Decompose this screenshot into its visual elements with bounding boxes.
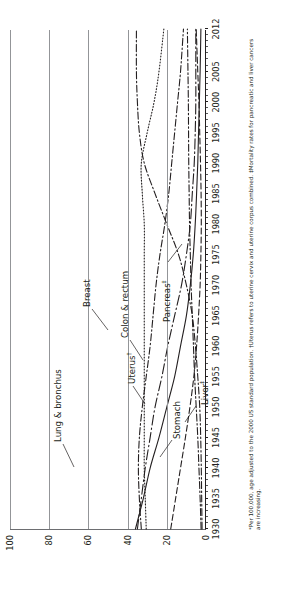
x-axis-minor-tick (206, 461, 208, 462)
x-axis-minor-tick (206, 40, 208, 41)
series-label-stomach: Stomach (173, 401, 182, 439)
x-axis-minor-tick (206, 77, 208, 78)
x-axis-minor-tick (206, 327, 208, 328)
x-axis-tick-mark (205, 315, 208, 316)
y-axis-tick-40: 40 (124, 535, 132, 569)
x-axis-tick-1975: 1975 (212, 244, 220, 265)
x-axis-tick-1985: 1985 (212, 183, 220, 204)
y-axis-tick-80: 80 (45, 535, 53, 569)
x-axis-minor-tick (206, 205, 208, 206)
x-axis-tick-1930: 1930 (212, 519, 220, 540)
x-axis-tick-mark (205, 162, 208, 163)
x-axis-tick-1955: 1955 (212, 366, 220, 387)
x-axis-tick-2005: 2005 (212, 61, 220, 82)
x-axis-minor-tick (206, 138, 208, 139)
x-axis-tick-mark (205, 345, 208, 346)
series-label-lung: Lung & bronchus (54, 369, 63, 442)
x-axis-minor-tick (206, 278, 208, 279)
gridline (49, 30, 50, 529)
pancreas-double-dagger: ‡ (160, 280, 167, 283)
x-axis-minor-tick (206, 412, 208, 413)
figure: Rate per 100,000 female population 02040… (0, 0, 292, 598)
x-axis-minor-tick (206, 369, 208, 370)
x-axis-minor-tick (206, 113, 208, 114)
x-axis-minor-tick (206, 449, 208, 450)
x-axis-tick-mark (205, 254, 208, 255)
x-axis-tick-1960: 1960 (212, 336, 220, 357)
x-axis-tick-1970: 1970 (212, 275, 220, 296)
x-axis-tick-2000: 2000 (212, 92, 220, 113)
x-axis-minor-tick (206, 522, 208, 523)
x-axis-minor-tick (206, 455, 208, 456)
x-axis-minor-tick (206, 260, 208, 261)
x-axis-tick-2012: 2012 (212, 19, 220, 40)
x-axis-minor-tick (206, 95, 208, 96)
x-axis-minor-tick (206, 272, 208, 273)
x-axis-tick-mark (205, 467, 208, 468)
x-axis-minor-tick (206, 156, 208, 157)
x-axis-tick-mark (205, 284, 208, 285)
chart-stage: Rate per 100,000 female population 02040… (0, 0, 292, 598)
x-axis-tick-mark (205, 28, 208, 29)
x-axis-minor-tick (206, 424, 208, 425)
x-axis-minor-tick (206, 65, 208, 66)
y-axis-tick-100: 100 (6, 535, 14, 569)
x-axis-tick-1995: 1995 (212, 122, 220, 143)
x-axis-tick-1945: 1945 (212, 427, 220, 448)
x-axis-tick-1940: 1940 (212, 458, 220, 479)
x-axis-minor-tick (206, 229, 208, 230)
x-axis-minor-tick (206, 174, 208, 175)
series-label-breast: Breast (83, 279, 92, 307)
series-label-colon-rectum: Colon & rectum (121, 271, 130, 338)
x-axis-minor-tick (206, 34, 208, 35)
x-axis-tick-mark (205, 193, 208, 194)
x-axis-tick-mark (205, 132, 208, 133)
x-axis-minor-tick (206, 52, 208, 53)
x-axis-minor-tick (206, 187, 208, 188)
x-axis-minor-tick (206, 491, 208, 492)
x-axis-tick-mark (205, 223, 208, 224)
x-axis-tick-1990: 1990 (212, 153, 220, 174)
x-axis-minor-tick (206, 339, 208, 340)
x-axis-minor-tick (206, 516, 208, 517)
liver-double-dagger: ‡ (198, 381, 205, 384)
x-axis-minor-tick (206, 357, 208, 358)
x-axis-minor-tick (206, 235, 208, 236)
x-axis-tick-mark (205, 528, 208, 529)
x-axis-minor-tick (206, 351, 208, 352)
x-axis-minor-tick (206, 211, 208, 212)
x-axis-minor-tick (206, 241, 208, 242)
gridline (10, 30, 11, 529)
x-axis-tick-mark (205, 71, 208, 72)
x-axis-minor-tick (206, 126, 208, 127)
series-line-colon-rectum (138, 29, 183, 529)
x-axis-minor-tick (206, 46, 208, 47)
x-axis-tick-mark (205, 437, 208, 438)
x-axis-minor-tick (206, 168, 208, 169)
x-axis-minor-tick (206, 290, 208, 291)
x-axis-tick-1965: 1965 (212, 305, 220, 326)
x-axis-minor-tick (206, 333, 208, 334)
series-line-breast (141, 29, 164, 529)
x-axis-minor-tick (206, 473, 208, 474)
x-axis-minor-tick (206, 217, 208, 218)
x-axis-minor-tick (206, 144, 208, 145)
x-axis-minor-tick (206, 266, 208, 267)
series-label-liver: Liver‡ (197, 381, 210, 405)
y-axis-tick-0: 0 (202, 535, 210, 569)
x-axis-minor-tick (206, 479, 208, 480)
x-axis-minor-tick (206, 180, 208, 181)
x-axis-tick-mark (205, 406, 208, 407)
x-axis-tick-1950: 1950 (212, 397, 220, 418)
series-label-uterus: Uterus† (124, 353, 137, 384)
x-axis-minor-tick (206, 296, 208, 297)
x-axis-minor-tick (206, 83, 208, 84)
x-axis-tick-1935: 1935 (212, 488, 220, 509)
x-axis-minor-tick (206, 309, 208, 310)
x-axis-tick-mark (205, 376, 208, 377)
x-axis-tick-mark (205, 101, 208, 102)
series-lines (10, 29, 206, 529)
y-axis-tick-60: 60 (84, 535, 92, 569)
x-axis-minor-tick (206, 119, 208, 120)
x-axis-minor-tick (206, 199, 208, 200)
